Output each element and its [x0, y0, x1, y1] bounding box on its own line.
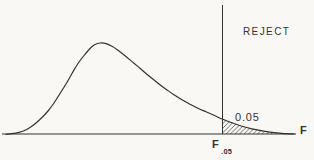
- tail-area-label: 0.05: [235, 111, 260, 123]
- x-axis-label: F: [300, 124, 307, 136]
- critical-value-label: F: [212, 138, 219, 150]
- f-distribution-figure: REJECT 0.05 F F .05: [0, 0, 314, 160]
- reject-label: REJECT: [243, 26, 290, 37]
- critical-value-subscript: .05: [221, 147, 232, 156]
- figure-canvas: REJECT 0.05 F F .05: [0, 0, 314, 160]
